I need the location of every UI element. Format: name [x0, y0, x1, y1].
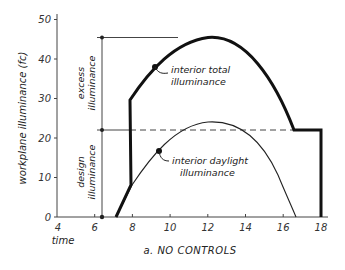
x-tick-14: 14 — [239, 222, 252, 233]
marker-bottom — [100, 215, 104, 219]
excess-label-1: excess — [75, 67, 86, 99]
marker-top — [100, 36, 104, 40]
x-tick-8: 8 — [129, 222, 135, 233]
y-tick-50: 50 — [38, 14, 51, 25]
y-axis-label: workplane illuminance (fc) — [17, 52, 28, 185]
x-tick-18: 18 — [315, 222, 328, 233]
x-tick-16: 16 — [277, 222, 290, 233]
illuminance-chart: 0 10 20 30 40 50 4 6 8 10 12 14 16 18 wo… — [0, 0, 345, 270]
daylight-label-1: interior daylight — [172, 155, 249, 166]
y-tick-40: 40 — [38, 54, 51, 65]
total-label-2: illuminance — [171, 76, 226, 87]
y-tick-0: 0 — [45, 212, 51, 223]
design-label-2: illuminance — [86, 144, 97, 199]
x-tick-12: 12 — [201, 222, 214, 233]
x-tick-6: 6 — [92, 222, 98, 233]
x-tick-4: 4 — [55, 222, 61, 233]
total-label-1: interior total — [171, 64, 231, 75]
design-label-1: design — [75, 156, 86, 188]
marker-mid — [100, 128, 104, 132]
chart-caption: a. NO CONTROLS — [143, 245, 236, 256]
y-tick-30: 30 — [38, 93, 51, 104]
daylight-label-2: illuminance — [180, 167, 235, 178]
y-tick-20: 20 — [38, 133, 51, 144]
x-tick-10: 10 — [164, 222, 177, 233]
y-tick-10: 10 — [38, 172, 51, 183]
x-axis-label: time — [52, 235, 75, 246]
excess-label-2: illuminance — [86, 55, 97, 110]
